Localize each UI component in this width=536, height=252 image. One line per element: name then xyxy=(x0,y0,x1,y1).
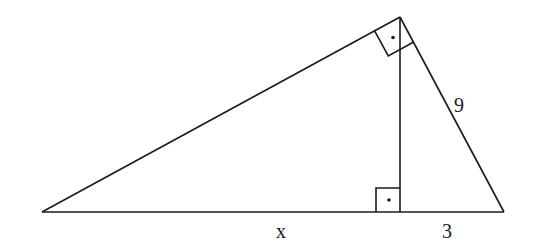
right-angle-mark-top xyxy=(375,31,414,56)
right-side-line xyxy=(400,17,504,212)
right-angle-dot-top xyxy=(391,36,395,40)
label-9: 9 xyxy=(454,94,464,116)
right-angle-dot-foot xyxy=(387,198,391,202)
label-3: 3 xyxy=(442,220,452,242)
left-side-line xyxy=(42,17,400,212)
triangle-diagram: x 3 9 xyxy=(0,0,536,252)
label-x: x xyxy=(276,220,286,242)
